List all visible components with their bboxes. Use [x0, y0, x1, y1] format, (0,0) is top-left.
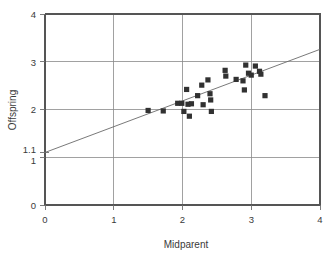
y-tick-labels: 4 3 2 1.1 1 0 — [23, 9, 36, 211]
y-tick-label-2: 2 — [31, 104, 36, 115]
data-point-marker — [240, 78, 245, 83]
x-tick-label-2: 2 — [180, 214, 185, 225]
x-tick-label-1: 1 — [111, 214, 116, 225]
data-point-marker — [179, 101, 184, 106]
x-axis-title: Midparent — [164, 239, 209, 250]
data-point-marker — [146, 108, 151, 113]
data-point-marker — [249, 73, 254, 78]
data-point-marker — [253, 63, 258, 68]
data-point-marker — [199, 83, 204, 88]
x-tick-label-4: 4 — [317, 214, 322, 225]
data-point-marker — [161, 108, 166, 113]
y-axis-title: Offspring — [7, 90, 18, 130]
data-point-marker — [209, 109, 214, 114]
data-point-marker — [242, 87, 247, 92]
y-tick-label-3: 3 — [31, 57, 36, 68]
data-point-marker — [262, 93, 267, 98]
x-tick-labels: 0 1 2 3 4 — [42, 214, 322, 225]
data-point-marker — [223, 68, 228, 73]
data-point-marker — [195, 93, 200, 98]
data-point-marker — [234, 77, 239, 82]
y-tick-label-1-1: 1.1 — [23, 144, 36, 155]
x-axis-ticks — [45, 205, 320, 210]
data-point-marker — [205, 77, 210, 82]
data-point-marker — [258, 72, 263, 77]
data-point-marker — [184, 87, 189, 92]
data-point-marker — [181, 109, 186, 114]
data-point-marker — [201, 102, 206, 107]
data-point-markers — [146, 62, 268, 118]
data-point-marker — [189, 101, 194, 106]
data-point-marker — [207, 91, 212, 96]
y-tick-label-4: 4 — [31, 9, 36, 20]
data-point-marker — [243, 62, 248, 67]
data-point-marker — [223, 73, 228, 78]
scatter-plot-figure: 4 3 2 1.1 1 0 0 1 2 3 4 Midparent Offspr… — [0, 0, 331, 262]
x-tick-label-0: 0 — [42, 214, 47, 225]
plot-canvas: 4 3 2 1.1 1 0 0 1 2 3 4 Midparent Offspr… — [0, 0, 331, 262]
x-tick-label-3: 3 — [249, 214, 254, 225]
data-point-marker — [187, 114, 192, 119]
y-tick-label-1: 1 — [31, 155, 36, 166]
data-point-marker — [208, 97, 213, 102]
y-tick-label-0: 0 — [31, 200, 36, 211]
